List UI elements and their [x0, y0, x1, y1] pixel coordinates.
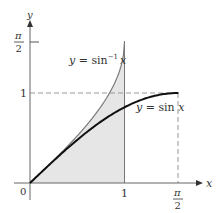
y-tick-label-one: 1	[20, 87, 27, 100]
y-tick-label-halfpi-den: 2	[16, 43, 22, 54]
x-axis-arrow-icon	[196, 180, 203, 186]
x-tick-label-halfpi-num: π	[173, 187, 181, 198]
y-tick-label-halfpi-num: π	[14, 30, 22, 41]
plot-canvas: y x 0 1 π 2 1 π 2 y = sin−1x y = sin x	[0, 0, 217, 213]
sin-label: y = sin x	[135, 101, 185, 114]
x-axis-label: x	[206, 177, 213, 190]
arcsin-label: y = sin−1x	[68, 53, 127, 67]
y-axis-arrow-icon	[27, 20, 33, 27]
x-tick-label-one: 1	[121, 187, 128, 200]
y-axis-label: y	[26, 9, 33, 20]
x-tick-label-halfpi-den: 2	[175, 200, 181, 211]
origin-label: 0	[20, 186, 26, 197]
